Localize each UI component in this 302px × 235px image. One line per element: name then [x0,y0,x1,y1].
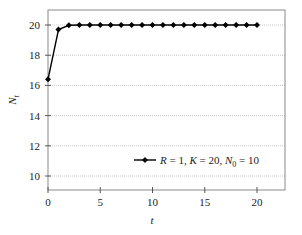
diamond-marker-icon [87,22,93,28]
diamond-marker-icon [66,22,72,28]
legend: R = 1, K = 20, N0 = 10 [134,154,260,169]
diamond-marker-icon [254,22,260,28]
y-tick-label: 16 [29,79,41,91]
svg-text:Nt: Nt [6,94,21,105]
diamond-marker-icon [181,22,187,28]
diamond-marker-icon [55,27,61,33]
x-axis-label: t [150,214,154,226]
y-axis-label: Nt [6,94,21,105]
diamond-marker-icon [118,22,124,28]
diamond-marker-icon [45,76,51,82]
y-tick-label: 10 [29,170,41,182]
y-tick-label: 12 [29,140,40,152]
y-tick-label: 18 [29,49,41,61]
diamond-marker-icon [202,22,208,28]
series-line [48,25,257,79]
legend-label: R = 1, K = 20, N0 = 10 [159,154,260,169]
diamond-marker-icon [170,22,176,28]
diamond-marker-icon [108,22,114,28]
diamond-marker-icon [212,22,218,28]
diamond-marker-icon [191,22,197,28]
diamond-marker-icon [223,22,229,28]
x-tick-label: 0 [45,196,51,208]
x-tick-label: 10 [147,196,159,208]
diamond-marker-icon [139,22,145,28]
x-tick-label: 5 [98,196,104,208]
legend-diamond-marker-icon [142,157,148,163]
y-tick-label: 14 [29,110,41,122]
diamond-marker-icon [129,22,135,28]
diamond-marker-icon [160,22,166,28]
data-series [45,22,260,82]
diamond-marker-icon [244,22,250,28]
diamond-marker-icon [150,22,156,28]
diamond-marker-icon [97,22,103,28]
diamond-marker-icon [233,22,239,28]
x-tick-label: 20 [252,196,264,208]
line-chart: 101214161820 05101520 t Nt R = 1, K = 20… [0,0,302,235]
diamond-marker-icon [76,22,82,28]
x-tick-label: 15 [199,196,211,208]
y-tick-label: 20 [29,19,41,31]
